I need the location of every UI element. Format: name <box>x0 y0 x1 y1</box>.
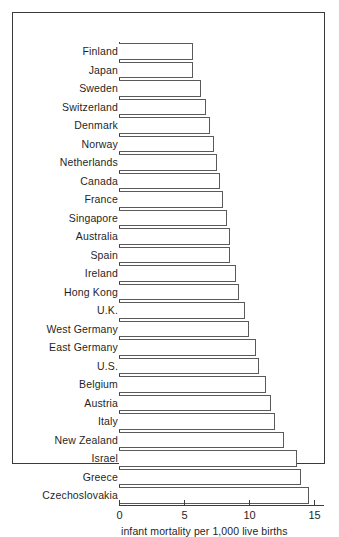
bar <box>119 302 245 319</box>
bar-row: Singapore <box>13 209 324 228</box>
bar <box>119 321 249 338</box>
chart-frame: FinlandJapanSwedenSwitzerlandDenmarkNorw… <box>12 12 325 464</box>
bar-category-label: Hong Kong <box>64 286 118 298</box>
bar-category-label: Singapore <box>69 212 118 224</box>
bar <box>119 450 297 467</box>
bar-category-label: Greece <box>83 471 118 483</box>
bar <box>119 265 236 282</box>
bar <box>119 99 206 116</box>
bar <box>119 395 271 412</box>
x-axis-tick <box>314 500 315 505</box>
bar-row: Sweden <box>13 79 324 98</box>
bar-category-label: Israel <box>91 452 118 464</box>
bar-category-label: Ireland <box>85 267 118 279</box>
bar-row: Finland <box>13 42 324 61</box>
x-axis-tick-label: 5 <box>181 509 187 521</box>
x-axis-tick <box>184 500 185 505</box>
bar-category-label: Austria <box>84 397 118 409</box>
bar-row: Czechoslovakia <box>13 486 324 505</box>
bar-row: Spain <box>13 246 324 265</box>
bar <box>119 117 210 134</box>
bar-row: Belgium <box>13 375 324 394</box>
bar <box>119 247 230 264</box>
bar-row: Italy <box>13 412 324 431</box>
bar-category-label: Switzerland <box>62 101 118 113</box>
bar-category-label: U.S. <box>97 360 118 372</box>
bar-category-label: New Zealand <box>54 434 118 446</box>
bar-row: Australia <box>13 227 324 246</box>
bar-category-label: West Germany <box>46 323 118 335</box>
bar <box>119 154 217 171</box>
x-axis-line <box>119 505 324 506</box>
bar-category-label: Italy <box>98 415 118 427</box>
x-axis-tick-label: 15 <box>308 509 320 521</box>
x-axis-label: infant mortality per 1,000 live births <box>121 525 288 537</box>
bar <box>119 432 284 449</box>
bar <box>119 191 223 208</box>
bar-row: Hong Kong <box>13 283 324 302</box>
bar-row: Ireland <box>13 264 324 283</box>
bar-category-label: Czechoslovakia <box>42 489 118 501</box>
x-axis-tick-label: 0 <box>116 509 122 521</box>
chart-plot-area: FinlandJapanSwedenSwitzerlandDenmarkNorw… <box>13 13 324 463</box>
bar-category-label: Netherlands <box>60 156 118 168</box>
bar <box>119 80 201 97</box>
bar <box>119 43 193 60</box>
bar-category-label: East Germany <box>49 341 118 353</box>
bar <box>119 284 239 301</box>
bar-category-label: Japan <box>89 64 118 76</box>
bar-category-label: Canada <box>80 175 118 187</box>
bar-row: Israel <box>13 449 324 468</box>
bar-row: Greece <box>13 468 324 487</box>
x-axis-tick-label: 10 <box>243 509 255 521</box>
bar-row: Austria <box>13 394 324 413</box>
bar-row: East Germany <box>13 338 324 357</box>
bar-category-label: Finland <box>83 45 119 57</box>
bar-row: West Germany <box>13 320 324 339</box>
bar-row: Japan <box>13 61 324 80</box>
bar-row: Denmark <box>13 116 324 135</box>
bar-category-label: U.K. <box>97 304 118 316</box>
bar-row: U.K. <box>13 301 324 320</box>
bar <box>119 228 230 245</box>
x-axis-tick <box>249 500 250 505</box>
bar-category-label: Belgium <box>79 378 118 390</box>
bar-row: New Zealand <box>13 431 324 450</box>
bar <box>119 358 259 375</box>
bar <box>119 376 266 393</box>
bar <box>119 469 301 486</box>
bar <box>119 413 275 430</box>
x-axis-tick <box>119 500 120 505</box>
bar-category-label: Norway <box>82 138 119 150</box>
bar-category-label: Australia <box>76 230 118 242</box>
bar-row: Switzerland <box>13 98 324 117</box>
bar <box>119 339 256 356</box>
bar-row: Canada <box>13 172 324 191</box>
bar-category-label: France <box>84 193 118 205</box>
bar-row: Norway <box>13 135 324 154</box>
bar <box>119 210 227 227</box>
bar <box>119 62 193 79</box>
bar <box>119 136 214 153</box>
bar-category-label: Denmark <box>74 119 118 131</box>
bar-category-label: Sweden <box>79 82 118 94</box>
bar-category-label: Spain <box>90 249 118 261</box>
bar-row: Netherlands <box>13 153 324 172</box>
bar <box>119 487 309 504</box>
bar <box>119 173 220 190</box>
bar-row: U.S. <box>13 357 324 376</box>
bar-row: France <box>13 190 324 209</box>
